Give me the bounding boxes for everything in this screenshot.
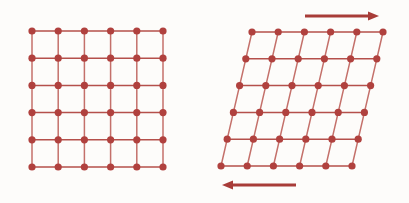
- lattice-node: [28, 55, 35, 62]
- lattice-node: [268, 55, 275, 62]
- lattice-node: [28, 82, 35, 89]
- lattice-node: [159, 109, 166, 116]
- lattice-node: [107, 55, 114, 62]
- lattice-node: [217, 162, 224, 169]
- lattice-node: [236, 82, 243, 89]
- lattice-node: [276, 136, 283, 143]
- lattice-node: [28, 163, 35, 170]
- lattice-node: [282, 109, 289, 116]
- lattice-node: [242, 55, 249, 62]
- lattice-node: [301, 28, 308, 35]
- lattice-node: [248, 28, 255, 35]
- lattice-node: [322, 162, 329, 169]
- lattice-node: [335, 109, 342, 116]
- lattice-node: [133, 82, 140, 89]
- lattice-node: [107, 163, 114, 170]
- lattice-node: [373, 55, 380, 62]
- lattice-node: [347, 55, 354, 62]
- lattice-node: [159, 136, 166, 143]
- lattice-node: [81, 136, 88, 143]
- lattice-node: [321, 55, 328, 62]
- lattice-node: [159, 55, 166, 62]
- lattice-node: [328, 136, 335, 143]
- lattice-node: [133, 136, 140, 143]
- lattice-node: [327, 28, 334, 35]
- lattice-node: [81, 55, 88, 62]
- lattice-node: [28, 109, 35, 116]
- lattice-node: [81, 109, 88, 116]
- lattice-node: [55, 163, 62, 170]
- lattice-node: [348, 162, 355, 169]
- lattice-node: [315, 82, 322, 89]
- lattice-node: [353, 28, 360, 35]
- lattice-node: [133, 109, 140, 116]
- lattice-node: [55, 82, 62, 89]
- lattice-node: [55, 109, 62, 116]
- lattice-node: [244, 162, 251, 169]
- lattice-node: [230, 109, 237, 116]
- lattice-node: [262, 82, 269, 89]
- lattice-node: [341, 82, 348, 89]
- lattice-node: [159, 82, 166, 89]
- lattice-node: [256, 109, 263, 116]
- lattice-diagram-canvas: [0, 0, 409, 203]
- lattice-node: [28, 136, 35, 143]
- lattice-node: [55, 136, 62, 143]
- lattice-node: [159, 163, 166, 170]
- lattice-node: [302, 136, 309, 143]
- lattice-node: [55, 27, 62, 34]
- lattice-node: [81, 27, 88, 34]
- lattice-node: [224, 136, 231, 143]
- lattice-node: [107, 82, 114, 89]
- lattice-node: [367, 82, 374, 89]
- lattice-node: [107, 109, 114, 116]
- lattice-node: [159, 27, 166, 34]
- lattice-node: [133, 163, 140, 170]
- lattice-node: [107, 136, 114, 143]
- lattice-node: [296, 162, 303, 169]
- lattice-node: [288, 82, 295, 89]
- lattice-node: [295, 55, 302, 62]
- lattice-node: [28, 27, 35, 34]
- lattice-figure: [0, 0, 409, 203]
- lattice-node: [55, 55, 62, 62]
- lattice-node: [250, 136, 257, 143]
- lattice-node: [275, 28, 282, 35]
- lattice-node: [133, 27, 140, 34]
- lattice-node: [81, 82, 88, 89]
- lattice-node: [270, 162, 277, 169]
- lattice-node: [81, 163, 88, 170]
- lattice-node: [133, 55, 140, 62]
- lattice-node: [355, 136, 362, 143]
- lattice-node: [379, 28, 386, 35]
- lattice-node: [107, 27, 114, 34]
- lattice-node: [308, 109, 315, 116]
- lattice-node: [361, 109, 368, 116]
